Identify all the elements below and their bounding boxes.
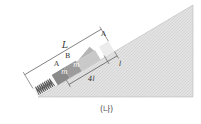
- label-l: l: [119, 60, 121, 68]
- label-4l: 4l: [87, 75, 95, 83]
- label-L: L: [61, 40, 68, 50]
- label-a-upper: A: [100, 30, 107, 38]
- label-mass-lower: m: [61, 68, 68, 76]
- label-a-lower: A: [53, 60, 60, 68]
- inclined-plane: [38, 5, 193, 97]
- figure-caption: (나): [100, 103, 113, 114]
- label-mass-upper: m: [73, 61, 80, 69]
- label-b: B: [65, 52, 70, 60]
